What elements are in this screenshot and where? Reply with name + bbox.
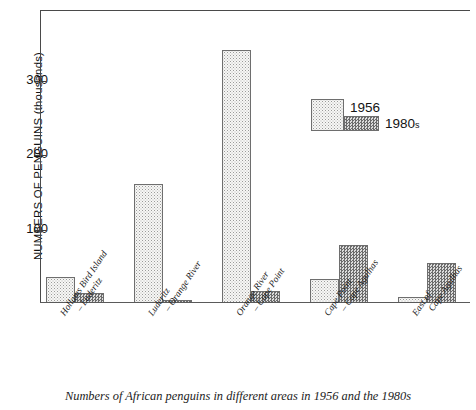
legend-label-1980s: 1980s [385, 116, 420, 131]
legend-swatch-1980s [344, 116, 379, 131]
bar-1956-2 [134, 184, 163, 303]
legend-label-1980s-text: 1980 [385, 116, 415, 131]
legend-label-1956: 1956 [350, 100, 380, 115]
legend-swatch-1956 [311, 99, 344, 131]
legend-item-1980s: 1980s [344, 116, 420, 131]
legend: 1956 1980s [311, 99, 436, 145]
figure-caption: Numbers of African penguins in different… [0, 389, 476, 404]
penguin-population-bar-chart: NUMBERS OF PENGUINS (thousands) 300 200 … [0, 0, 476, 410]
bar-1956-3 [222, 50, 251, 303]
legend-label-1980s-suffix: s [415, 120, 420, 130]
